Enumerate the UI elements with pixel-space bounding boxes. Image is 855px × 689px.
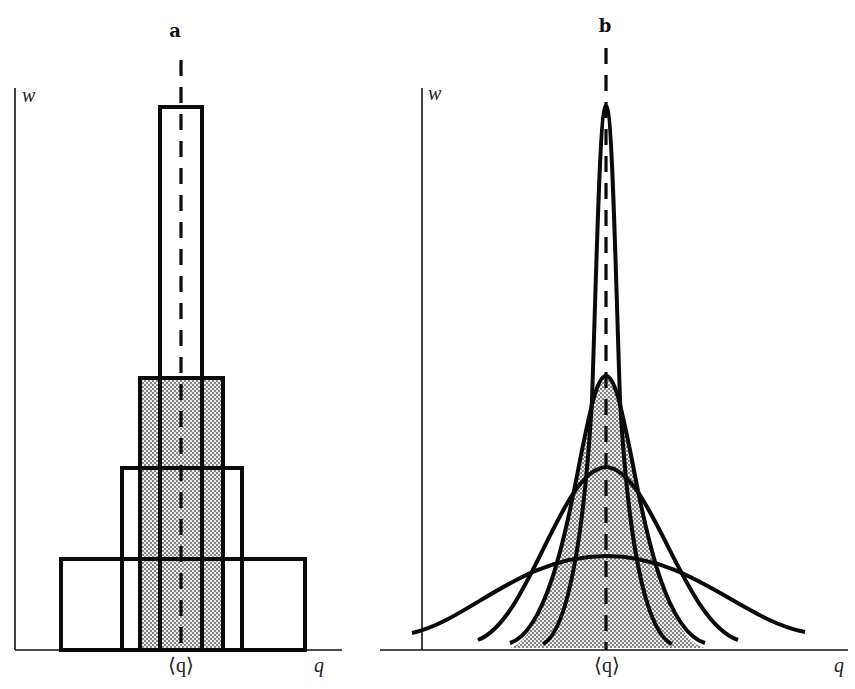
panel-b: b w q ⟨q⟩ — [380, 15, 848, 677]
mean-label-b: ⟨q⟩ — [594, 654, 620, 677]
figure-canvas: a w q ⟨q⟩ b w q ⟨q⟩ — [0, 0, 855, 689]
x-axis-label-b: q — [834, 654, 844, 677]
panel-b-label: b — [599, 15, 612, 36]
x-axis-label-a: q — [314, 654, 324, 677]
mean-label-a: ⟨q⟩ — [168, 654, 194, 677]
panel-a-label: a — [169, 20, 181, 41]
panel-a: a w q ⟨q⟩ — [15, 20, 342, 677]
y-axis-label-a: w — [22, 84, 36, 106]
y-axis-label-b: w — [428, 82, 442, 104]
